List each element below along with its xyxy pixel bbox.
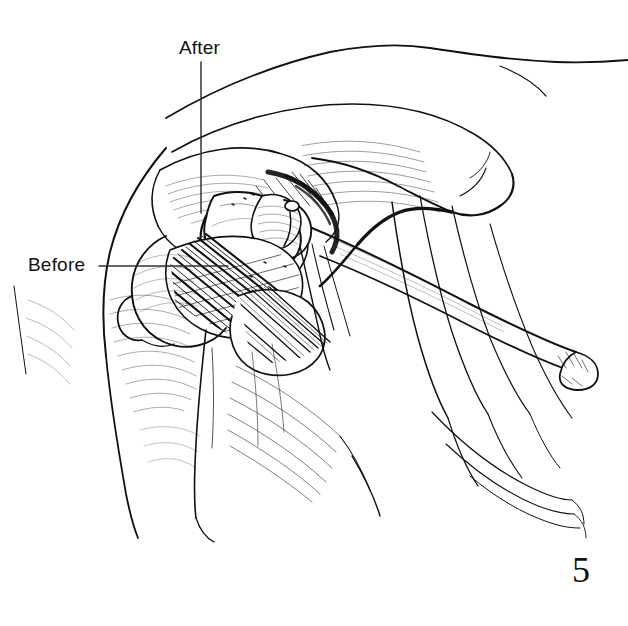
shoulder-anatomy-drawing [0, 0, 628, 626]
figure-illustration: After Before 5 [0, 0, 628, 626]
label-after: After [179, 38, 220, 57]
label-before: Before [28, 255, 85, 274]
figure-number: 5 [572, 552, 590, 588]
